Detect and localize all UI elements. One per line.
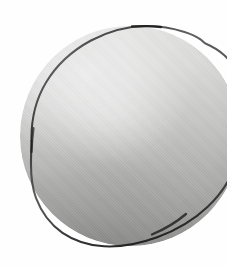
figure-canvas (0, 0, 227, 267)
object-halftone-grain (20, 26, 227, 246)
circular-object (20, 26, 227, 246)
